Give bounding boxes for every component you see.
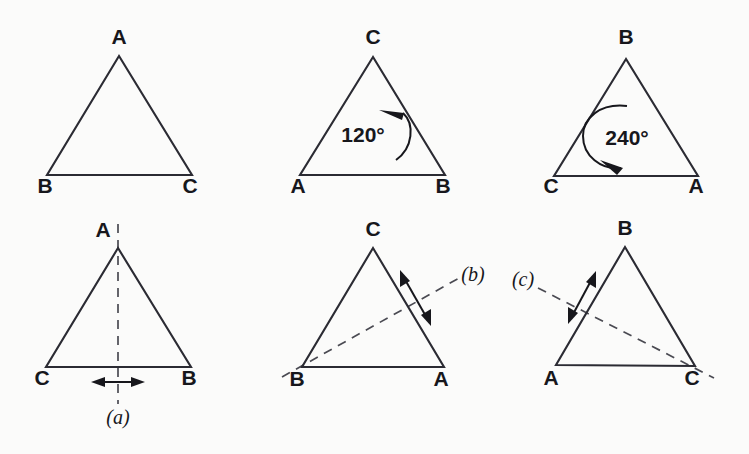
panel-reflection-b: C B A (b): [282, 217, 485, 390]
rotation-angle-label: 120°: [341, 123, 384, 146]
vertex-label-bottom-right: B: [181, 366, 196, 389]
mirror-line-b: [282, 277, 461, 377]
vertex-label-bottom-left: C: [543, 174, 558, 197]
rotation-angle-label: 240°: [605, 126, 648, 149]
vertex-label-apex: A: [111, 25, 126, 48]
panel-rotation-120: C A B 120°: [290, 25, 450, 197]
mirror-label-b: (b): [461, 263, 485, 286]
triangle-rotation-240: [554, 59, 698, 176]
vertex-label-bottom-right: A: [688, 174, 703, 197]
vertex-label-apex: C: [365, 217, 380, 240]
panel-reflection-a: A C B (a): [34, 218, 196, 429]
vertex-label-apex: C: [365, 25, 380, 48]
vertex-label-apex: B: [617, 216, 632, 239]
triangle-reflection-b: [302, 248, 444, 367]
vertex-label-bottom-left: A: [290, 174, 305, 197]
vertex-label-bottom-left: B: [37, 174, 52, 197]
triangle-identity: [47, 56, 192, 175]
vertex-label-bottom-left: B: [289, 367, 304, 390]
vertex-label-bottom-left: A: [543, 366, 558, 389]
symmetry-operations-figure: A B C C A B 120° B C A: [0, 0, 749, 454]
vertex-label-apex: A: [95, 218, 110, 241]
mirror-label-c: (c): [512, 268, 535, 291]
triangle-rotation-120: [300, 57, 445, 175]
panel-reflection-c: B A C (c): [512, 216, 714, 389]
vertex-label-bottom-right: A: [433, 367, 448, 390]
vertex-label-bottom-left: C: [34, 366, 49, 389]
vertex-label-bottom-right: C: [182, 174, 197, 197]
vertex-label-bottom-right: C: [684, 366, 699, 389]
reflection-double-arrow-icon: [568, 271, 596, 324]
panel-identity: A B C: [37, 25, 197, 197]
panel-rotation-240: B C A 240°: [543, 25, 703, 197]
mirror-label-a: (a): [106, 406, 130, 429]
vertex-label-apex: B: [618, 25, 633, 48]
vertex-label-bottom-right: B: [435, 174, 450, 197]
